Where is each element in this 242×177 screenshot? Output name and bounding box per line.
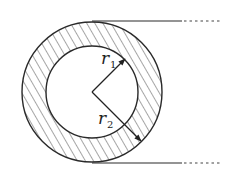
r2-subscript: 2: [107, 119, 113, 130]
r1-subscript: 1: [110, 59, 116, 70]
hatched-ring: [0, 0, 242, 177]
r2-label: r: [98, 108, 107, 128]
r1-label: r: [101, 48, 110, 68]
annulus-diagram: r 1 r 2: [0, 0, 242, 177]
